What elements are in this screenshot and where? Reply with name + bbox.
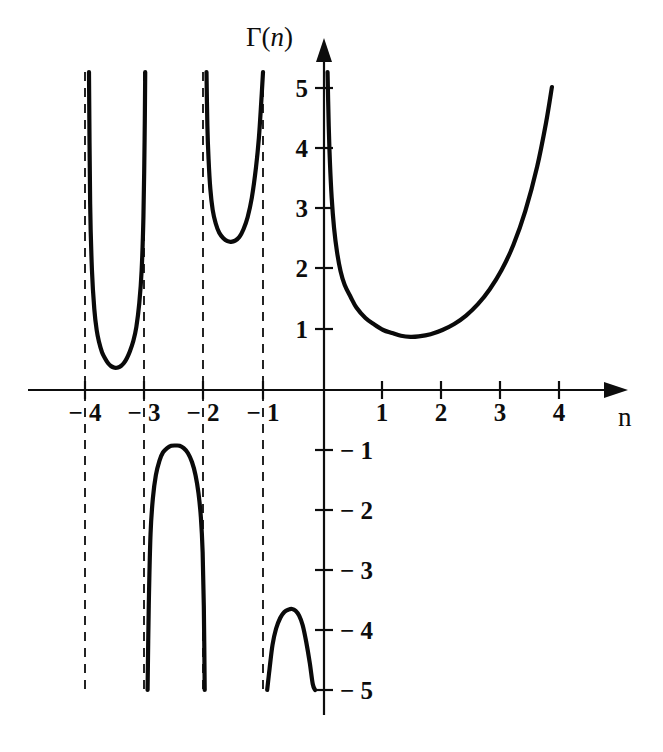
y-tick-label--4: − 4 bbox=[340, 618, 373, 643]
curve-branch-(-3,-2) bbox=[148, 445, 205, 690]
x-tick-label-4: 4 bbox=[553, 400, 566, 425]
x-tick-label--4: − 4 bbox=[69, 400, 102, 425]
curve-branch-(-4,-3) bbox=[89, 72, 145, 368]
x-tick-label--1: − 1 bbox=[247, 400, 280, 425]
gamma-curve-group bbox=[89, 72, 552, 690]
curve-branch-(0,inf) bbox=[328, 72, 552, 337]
y-axis-label-variable: n bbox=[271, 22, 285, 52]
y-tick-label-4: 4 bbox=[296, 136, 309, 161]
y-tick-label--2: − 2 bbox=[340, 498, 373, 523]
curve-branch-(-1,0) bbox=[267, 609, 315, 690]
x-axis bbox=[28, 381, 628, 399]
y-tick-label--3: − 3 bbox=[340, 558, 373, 583]
y-axis-label: Γ(n) bbox=[246, 24, 293, 51]
x-tick-label-3: 3 bbox=[494, 400, 507, 425]
curve-branch-(-2,-1) bbox=[206, 72, 263, 242]
x-tick-label-1: 1 bbox=[376, 400, 389, 425]
y-tick-label-2: 2 bbox=[296, 256, 309, 281]
y-tick-label--1: − 1 bbox=[340, 438, 373, 463]
gamma-function-figure: − 4 − 3 − 2 − 1 1 2 3 4 5 4 3 2 1 − 1 − … bbox=[0, 0, 663, 752]
x-tick-label--2: − 2 bbox=[187, 400, 220, 425]
y-axis-label-gamma: Γ( bbox=[246, 22, 271, 52]
plot-canvas bbox=[0, 0, 663, 752]
x-axis-label: n bbox=[618, 404, 632, 431]
y-axis-arrow-icon bbox=[316, 38, 332, 62]
y-tick-label-5: 5 bbox=[296, 76, 309, 101]
y-tick-label--5: − 5 bbox=[340, 678, 373, 703]
y-axis-label-paren: ) bbox=[284, 22, 293, 52]
x-tick-label-2: 2 bbox=[435, 400, 448, 425]
asymptote-group bbox=[85, 72, 263, 690]
y-tick-label-3: 3 bbox=[296, 196, 309, 221]
y-tick-label-1: 1 bbox=[296, 317, 309, 342]
x-tick-label--3: − 3 bbox=[128, 400, 161, 425]
x-axis-arrow-icon bbox=[604, 382, 628, 398]
